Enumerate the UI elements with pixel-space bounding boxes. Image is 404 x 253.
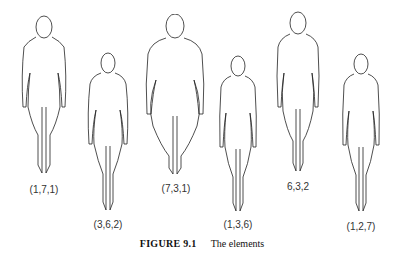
human-silhouette-icon (338, 53, 384, 213)
human-silhouette-icon (143, 14, 207, 176)
figure-label-6: (1,2,7) (347, 221, 376, 232)
body-figure-4 (215, 55, 261, 213)
figure-number: FIGURE 9.1 (140, 238, 197, 249)
body-figure-3 (143, 14, 207, 176)
body-figure-1 (18, 15, 70, 177)
figure-label-4: (1,3,6) (224, 219, 253, 230)
human-silhouette-icon (18, 15, 70, 177)
figure-label-2: (3,6,2) (94, 219, 123, 230)
figure-label-1: (1,7,1) (30, 184, 59, 195)
figure-label-3: (7,3,1) (162, 183, 191, 194)
figure-label-5: 6,3,2 (287, 181, 309, 192)
human-silhouette-icon (84, 52, 132, 212)
body-figure-6 (338, 53, 384, 213)
body-figure-5 (272, 11, 324, 173)
figure-caption: FIGURE 9.1The elements (0, 238, 404, 249)
human-silhouette-icon (272, 11, 324, 173)
body-figure-2 (84, 52, 132, 212)
figure-title: The elements (211, 238, 265, 249)
human-silhouette-icon (215, 55, 261, 213)
